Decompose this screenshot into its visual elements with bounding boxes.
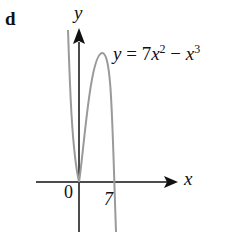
eq-equals: = 7 — [121, 43, 151, 64]
origin-label: 0 — [64, 182, 73, 203]
x-axis-label: x — [184, 168, 192, 190]
y-axis-arrow-icon — [73, 28, 85, 44]
eq-minus: − — [166, 43, 186, 64]
root-label: 7 — [104, 189, 113, 210]
graph-canvas — [0, 0, 236, 234]
y-axis-label: y — [74, 2, 82, 24]
eq-var2: x — [186, 43, 194, 64]
eq-exp2: 3 — [194, 42, 200, 56]
panel-label: d — [5, 8, 16, 30]
eq-var1: x — [151, 43, 159, 64]
equation-label: y = 7x2 − x3 — [113, 42, 200, 65]
